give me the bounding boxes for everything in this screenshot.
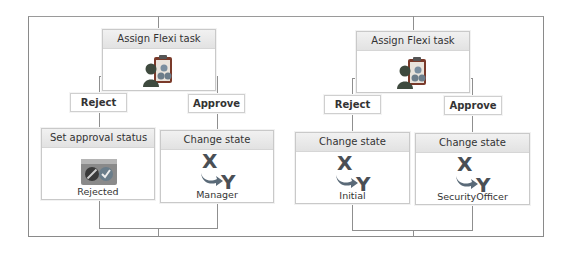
change-state-node[interactable]: Change state X Y Initial [295,132,410,204]
assign-flexi-task-node[interactable]: Assign Flexi task [102,29,216,91]
svg-text:Y: Y [220,170,236,191]
connector-line [413,16,414,31]
connector-line [217,203,218,228]
node-title: Change state [161,131,273,150]
node-caption: Rejected [42,186,154,197]
change-state-xy-icon: X Y [454,154,492,194]
branch-label-reject[interactable]: Reject [70,93,127,112]
branch-label-approve[interactable]: Approve [444,96,502,115]
change-state-node[interactable]: Change state X Y Manager [160,130,274,203]
node-title: Change state [416,134,529,153]
connector-line [413,230,414,237]
change-state-xy-icon: X Y [199,151,237,191]
change-state-node[interactable]: Change state X Y SecurityOfficer [415,133,530,205]
svg-text:X: X [202,151,218,173]
set-approval-status-node[interactable]: Set approval status Rejected [41,128,155,200]
connector-line [158,16,159,29]
connector-line [352,203,353,230]
assign-task-icon [396,55,430,91]
connector-line [472,205,473,230]
assign-task-icon [142,53,176,89]
connector-line [99,200,100,228]
node-title: Assign Flexi task [103,30,215,49]
approval-status-icon [81,159,117,185]
branch-label-reject[interactable]: Reject [324,95,381,114]
assign-flexi-task-node[interactable]: Assign Flexi task [356,31,470,93]
connector-line [158,228,159,237]
branch-label-approve[interactable]: Approve [188,94,245,113]
node-title: Set approval status [42,129,154,148]
node-caption: Initial [296,190,409,201]
node-title: Assign Flexi task [357,32,469,51]
svg-text:X: X [337,153,353,175]
node-title: Change state [296,133,409,152]
node-caption: SecurityOfficer [416,191,529,202]
node-caption: Manager [161,189,273,200]
svg-text:X: X [457,154,473,176]
change-state-xy-icon: X Y [334,153,372,193]
